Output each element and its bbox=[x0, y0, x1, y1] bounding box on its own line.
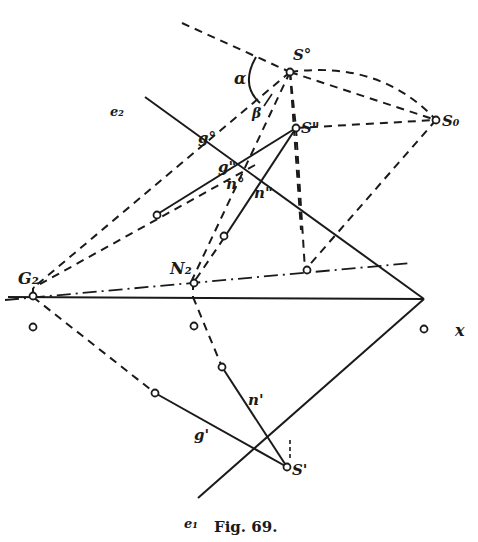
dashed-s2-vertical bbox=[296, 128, 305, 270]
figure-caption: Fig. 69. bbox=[214, 518, 277, 536]
point-s-zero bbox=[287, 69, 294, 76]
point-g-prime bbox=[152, 390, 159, 397]
point-dashdot-intersection bbox=[304, 267, 311, 274]
point-x-axis-end bbox=[421, 326, 428, 333]
label-g-zero: g° bbox=[198, 129, 216, 147]
point-g-double-trace bbox=[154, 212, 161, 219]
label-s-prime: S' bbox=[292, 461, 307, 479]
ground-line-x bbox=[8, 297, 424, 299]
point-s-sub0 bbox=[433, 117, 440, 124]
point-s-prime bbox=[284, 464, 291, 471]
line-n-double-dashed bbox=[194, 238, 224, 282]
point-s-double bbox=[293, 125, 300, 132]
label-x-axis: x bbox=[454, 321, 465, 340]
label-s-zero: S° bbox=[293, 46, 311, 64]
dashed-s0-to-sub0 bbox=[290, 72, 436, 120]
line-g-prime-dashed bbox=[33, 297, 155, 393]
trace-e1 bbox=[198, 299, 424, 498]
label-beta: β bbox=[251, 105, 262, 121]
label-n-double: n" bbox=[254, 184, 273, 202]
label-alpha: α bbox=[234, 69, 246, 88]
line-n-prime bbox=[222, 367, 287, 467]
label-s-sub0: S₀ bbox=[442, 112, 460, 130]
line-n-prime-dashed bbox=[193, 297, 222, 367]
geometry-figure: S° S" S₀ S' α β e₂ e₁ g° g" n° n" n' g' … bbox=[0, 0, 478, 542]
label-g-double: g" bbox=[218, 158, 236, 176]
angle-beta-mark bbox=[264, 94, 272, 106]
point-g2 bbox=[30, 293, 37, 300]
point-n-double-trace bbox=[221, 233, 228, 240]
dashed-sub0-down bbox=[305, 120, 436, 270]
label-n-zero: n° bbox=[226, 175, 244, 193]
label-e2: e₂ bbox=[110, 104, 124, 119]
label-g2: G₂ bbox=[18, 269, 39, 288]
line-g-prime bbox=[155, 393, 287, 467]
dashed-top-line bbox=[182, 23, 290, 72]
point-n2-ground bbox=[191, 323, 198, 330]
point-g2-ground bbox=[30, 324, 37, 331]
label-e1: e₁ bbox=[184, 516, 198, 531]
label-n2: N₂ bbox=[169, 259, 192, 278]
label-n-prime: n' bbox=[248, 391, 264, 409]
point-n-prime bbox=[219, 364, 226, 371]
angle-alpha-arc bbox=[249, 57, 260, 103]
dashed-g2-extension bbox=[33, 165, 255, 288]
label-g-prime: g' bbox=[194, 426, 209, 444]
point-n2 bbox=[191, 280, 198, 287]
label-s-double: S" bbox=[301, 119, 320, 137]
